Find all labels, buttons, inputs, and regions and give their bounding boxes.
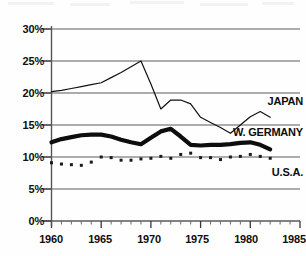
y-tick-15: 15% [0,119,44,131]
gridlines [43,29,301,221]
x-tick-1985: 1985 [272,233,306,245]
x-tick-1970: 1970 [127,233,171,245]
x-tick-1980: 1980 [224,233,268,245]
series-label-w-germany: W. GERMANY [233,126,303,138]
x-tick-1965: 1965 [78,233,122,245]
y-tick-10: 10% [0,151,44,163]
x-tick-1960: 1960 [29,233,73,245]
y-tick-5: 5% [0,183,44,195]
y-tick-20: 20% [0,87,44,99]
x-tick-1975: 1975 [175,233,219,245]
series-label-usa: U.S.A. [272,166,303,178]
x-axis-major-ticks [52,221,301,228]
y-tick-0: 0% [0,215,44,227]
chart-container: 30% 25% 20% 15% 10% 5% 0% 1960 1965 1970… [0,0,306,256]
y-tick-30: 30% [0,23,44,35]
series-label-japan: JAPAN [268,95,303,107]
data-series-layer [50,61,272,167]
y-tick-25: 25% [0,55,44,67]
